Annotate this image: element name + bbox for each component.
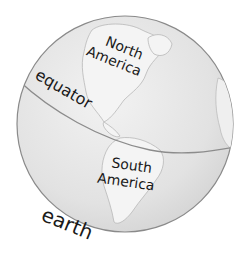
globe-diagram: North America equator South America eart… bbox=[0, 0, 249, 280]
